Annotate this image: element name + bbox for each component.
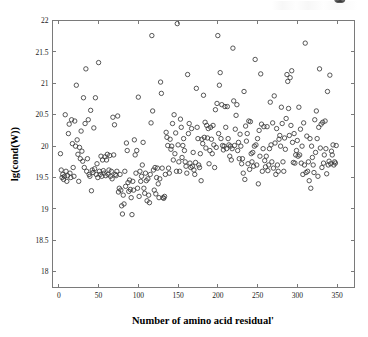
data-point	[334, 143, 338, 147]
data-point	[170, 121, 174, 125]
data-point	[288, 75, 292, 79]
data-point	[207, 162, 211, 166]
data-point	[219, 136, 223, 140]
data-point	[232, 99, 236, 103]
data-point	[217, 83, 221, 87]
y-axis-title: lg(cond(W))	[9, 126, 21, 181]
data-point	[273, 141, 277, 145]
data-point	[216, 131, 220, 135]
data-point	[130, 212, 134, 216]
y-tick-label: 18.5	[35, 236, 48, 245]
data-point	[76, 152, 80, 156]
data-point	[283, 147, 287, 151]
data-point	[270, 160, 274, 164]
data-point	[124, 141, 128, 145]
data-point	[226, 136, 230, 140]
data-point	[290, 69, 294, 73]
y-axis-tick-labels: 1818.51919.52020.52121.522	[35, 16, 48, 276]
data-point	[115, 114, 119, 118]
data-point	[210, 151, 214, 155]
data-point	[287, 133, 291, 137]
data-point	[80, 149, 84, 153]
data-point	[312, 170, 316, 174]
data-point	[71, 165, 75, 169]
data-point	[148, 172, 152, 176]
y-tick-label: 20	[41, 142, 49, 151]
data-point	[150, 33, 154, 37]
data-point	[279, 105, 283, 109]
data-point	[184, 164, 188, 168]
y-tick-label: 21.5	[35, 48, 48, 57]
x-tick-label: 350	[331, 291, 343, 300]
data-point	[322, 153, 326, 157]
data-point	[284, 116, 288, 120]
data-point	[74, 83, 78, 87]
data-point	[317, 67, 321, 71]
data-point	[297, 105, 301, 109]
data-point	[201, 141, 205, 145]
data-point	[176, 143, 180, 147]
data-point	[213, 108, 217, 112]
data-point	[242, 89, 246, 93]
data-point	[123, 169, 127, 173]
data-point	[281, 160, 285, 164]
data-point	[140, 163, 144, 167]
data-point	[241, 171, 245, 175]
data-point	[234, 113, 238, 117]
data-point	[179, 125, 183, 129]
data-point	[231, 46, 235, 50]
data-point	[142, 186, 146, 190]
y-tick-label: 22	[41, 16, 49, 25]
data-point	[290, 140, 294, 144]
data-point	[84, 67, 88, 71]
data-point	[244, 139, 248, 143]
data-point	[306, 160, 310, 164]
data-point	[238, 132, 242, 136]
data-point	[309, 144, 313, 148]
data-point	[239, 162, 243, 166]
data-point	[180, 155, 184, 159]
data-point	[255, 136, 259, 140]
data-point	[243, 177, 247, 181]
data-point	[315, 136, 319, 140]
data-point	[146, 193, 150, 197]
data-point	[175, 21, 179, 25]
data-point	[171, 158, 175, 162]
data-point	[289, 123, 293, 127]
data-point	[313, 150, 317, 154]
x-tick-label: 100	[133, 291, 145, 300]
data-point	[235, 102, 239, 106]
data-point	[216, 33, 220, 37]
data-point	[307, 179, 311, 183]
data-point	[156, 182, 160, 186]
data-point	[85, 157, 89, 161]
data-point	[177, 160, 181, 164]
data-point	[298, 127, 302, 131]
x-tick-label: 150	[172, 291, 184, 300]
data-point	[182, 148, 186, 152]
data-point	[172, 113, 176, 117]
data-point	[292, 131, 296, 135]
scatter-points	[58, 0, 345, 217]
data-point	[194, 86, 198, 90]
data-point	[239, 144, 243, 148]
data-point	[139, 174, 143, 178]
data-point	[250, 160, 254, 164]
data-point	[282, 169, 286, 173]
data-point	[79, 129, 83, 133]
y-tick-label: 18	[41, 267, 49, 276]
data-point	[166, 166, 170, 170]
data-point	[58, 151, 62, 155]
data-point	[135, 186, 139, 190]
data-point	[67, 122, 71, 126]
x-tick-label: 0	[57, 291, 61, 300]
data-point	[177, 169, 181, 173]
data-point	[121, 193, 125, 197]
data-point	[75, 138, 79, 142]
data-point	[192, 168, 196, 172]
data-point	[187, 121, 191, 125]
data-point	[189, 126, 193, 130]
data-point	[286, 106, 290, 110]
data-point	[118, 172, 122, 176]
data-point	[86, 118, 90, 122]
